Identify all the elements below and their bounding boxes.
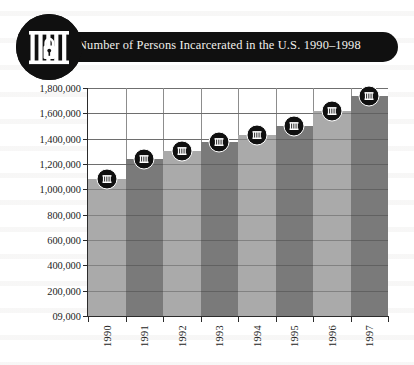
bar-slot <box>126 88 164 316</box>
y-axis-label: 800,000 <box>47 209 81 220</box>
y-axis-label: 200,000 <box>47 285 81 296</box>
bar <box>351 96 389 316</box>
y-axis-label: 09,000 <box>52 311 81 322</box>
x-axis-tick <box>238 316 239 322</box>
y-axis-tick <box>83 215 88 216</box>
x-axis-tick <box>163 316 164 322</box>
x-axis-tick <box>388 316 389 322</box>
data-point-marker <box>246 124 267 145</box>
y-axis-tick <box>83 291 88 292</box>
x-axis-label: 1994 <box>251 325 262 347</box>
y-axis-label: 400,000 <box>47 260 81 271</box>
y-axis-tick <box>83 88 88 89</box>
plot-area: 1,800,0001,600,0001,400,0001,200,0001,00… <box>87 88 388 317</box>
bar <box>313 111 351 316</box>
x-axis-label: 1997 <box>364 325 375 347</box>
data-point-marker <box>209 132 230 153</box>
y-axis-tick <box>83 265 88 266</box>
y-axis-label: 1,000,000 <box>39 184 81 195</box>
y-axis-tick <box>83 189 88 190</box>
data-point-marker <box>171 141 192 162</box>
bar <box>88 179 126 316</box>
bar-slot <box>238 88 276 316</box>
y-axis-label: 600,000 <box>47 235 81 246</box>
data-point-marker <box>134 148 155 169</box>
bar <box>126 159 164 316</box>
y-axis-tick <box>83 240 88 241</box>
x-axis-tick <box>201 316 202 322</box>
bar-slot <box>313 88 351 316</box>
bar-slot <box>163 88 201 316</box>
bar-series <box>88 88 388 316</box>
x-axis-tick <box>126 316 127 322</box>
data-point-marker <box>359 85 380 106</box>
x-axis-label: 1991 <box>139 325 150 347</box>
x-axis-tick <box>276 316 277 322</box>
y-axis-label: 1,400,000 <box>39 133 81 144</box>
bar <box>238 135 276 316</box>
data-point-marker <box>96 169 117 190</box>
bar-slot <box>88 88 126 316</box>
bar-slot <box>351 88 389 316</box>
y-axis-label: 1,600,000 <box>39 108 81 119</box>
x-axis-tick <box>351 316 352 322</box>
y-axis-tick <box>83 113 88 114</box>
x-axis-label: 1992 <box>176 325 187 347</box>
x-axis-label: 1990 <box>101 325 112 347</box>
y-axis-label: 1,200,000 <box>39 159 81 170</box>
x-axis-label: 1993 <box>214 325 225 347</box>
chart-header: Number of Persons Incarcerated in the U.… <box>16 30 398 64</box>
bar-slot <box>201 88 239 316</box>
y-axis-tick <box>83 139 88 140</box>
x-axis-tick <box>313 316 314 322</box>
data-point-marker <box>284 116 305 137</box>
incarceration-bar-chart: 1,800,0001,600,0001,400,0001,200,0001,00… <box>0 0 414 365</box>
x-axis-label: 1995 <box>289 325 300 347</box>
bar <box>276 126 314 316</box>
page-title: Number of Persons Incarcerated in the U.… <box>78 30 394 60</box>
bar <box>163 151 201 316</box>
x-axis-label: 1996 <box>326 325 337 347</box>
bar <box>201 142 239 316</box>
jail-bars-padlock-icon <box>16 14 82 80</box>
x-axis-tick <box>88 316 89 322</box>
y-axis-tick <box>83 164 88 165</box>
y-axis-label: 1,800,000 <box>39 83 81 94</box>
data-point-marker <box>321 100 342 121</box>
